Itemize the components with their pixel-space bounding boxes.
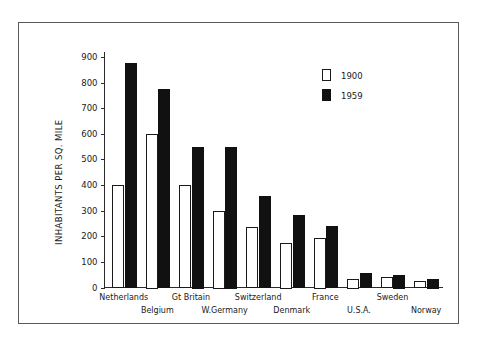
bar-1959 bbox=[360, 274, 371, 288]
category-label: U.S.A. bbox=[347, 306, 371, 315]
bars-group bbox=[113, 64, 439, 289]
legend-swatch-1900 bbox=[323, 70, 331, 81]
bar-1900 bbox=[113, 186, 124, 288]
bar-1959 bbox=[226, 148, 237, 289]
bar-1900 bbox=[381, 278, 392, 288]
bar-1959 bbox=[259, 197, 270, 288]
y-tick-label: 400 bbox=[81, 180, 97, 190]
bar-1900 bbox=[180, 186, 191, 288]
y-tick-label: 100 bbox=[81, 257, 97, 267]
y-tick-label: 0 bbox=[92, 283, 97, 293]
y-tick-label: 500 bbox=[81, 154, 97, 164]
y-tick-label: 800 bbox=[81, 78, 97, 88]
category-label: Norway bbox=[411, 306, 442, 315]
bar-chart: 0100200300400500600700800900 Netherlands… bbox=[0, 0, 480, 349]
bar-1900 bbox=[314, 239, 325, 289]
y-tick-label: 200 bbox=[81, 231, 97, 241]
category-label: France bbox=[312, 293, 339, 302]
category-label: Netherlands bbox=[99, 293, 148, 302]
category-labels: NetherlandsBelgiumGt BritainW.GermanySwi… bbox=[99, 293, 441, 315]
bar-1959 bbox=[427, 280, 438, 289]
bar-1900 bbox=[348, 280, 359, 289]
legend: 1900 1959 bbox=[323, 70, 363, 102]
category-label: Sweden bbox=[377, 293, 409, 302]
bar-1959 bbox=[159, 90, 170, 288]
y-tick-label: 900 bbox=[81, 52, 97, 62]
legend-label-1959: 1959 bbox=[341, 91, 363, 101]
bar-1959 bbox=[293, 216, 304, 288]
bar-1959 bbox=[125, 64, 136, 288]
category-label: W.Germany bbox=[201, 306, 248, 315]
category-label: Denmark bbox=[273, 306, 310, 315]
category-label: Switzerland bbox=[235, 293, 282, 302]
bar-1900 bbox=[146, 135, 157, 289]
y-axis-ticks: 0100200300400500600700800900 bbox=[81, 52, 104, 293]
bar-1900 bbox=[213, 212, 224, 289]
bar-1959 bbox=[192, 148, 203, 289]
bar-1959 bbox=[327, 227, 338, 288]
y-tick-label: 600 bbox=[81, 129, 97, 139]
bar-1900 bbox=[281, 244, 292, 289]
legend-swatch-1959 bbox=[323, 90, 331, 101]
figure: 0100200300400500600700800900 Netherlands… bbox=[0, 0, 480, 349]
category-label: Gt Britain bbox=[172, 293, 210, 302]
y-tick-label: 700 bbox=[81, 103, 97, 113]
legend-label-1900: 1900 bbox=[341, 71, 363, 81]
bar-1959 bbox=[394, 276, 405, 289]
y-tick-label: 300 bbox=[81, 206, 97, 216]
y-axis-title: INHABITANTS PER SQ. MILE bbox=[54, 119, 64, 245]
bar-1900 bbox=[415, 282, 426, 288]
bar-1900 bbox=[247, 228, 258, 288]
category-label: Belgium bbox=[141, 306, 174, 315]
